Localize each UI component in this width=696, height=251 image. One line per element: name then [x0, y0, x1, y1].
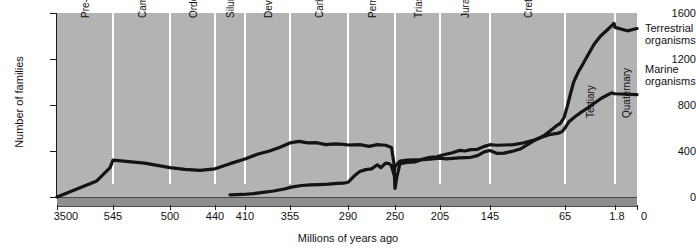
legend-terrestrial: Terrestrial organisms — [645, 22, 696, 46]
legend-terrestrial-line2: organisms — [645, 34, 696, 46]
legend-marine-line1: Marine — [645, 63, 696, 75]
x-tick-label-290: 290 — [323, 210, 373, 222]
x-axis-title: Millions of years ago — [0, 232, 696, 244]
x-tick-label-0: 0 — [619, 210, 669, 222]
x-tick-label-410: 410 — [220, 210, 270, 222]
x-tick-label-355: 355 — [265, 210, 315, 222]
biodiversity-chart: 1600 1200 800 400 0 Number of families P… — [0, 0, 696, 251]
terrestrial-organisms-curve — [230, 23, 637, 195]
x-tick-label-3500: 3500 — [41, 210, 91, 222]
x-tick-label-500: 500 — [145, 210, 195, 222]
legend-marine: Marine organisms — [645, 63, 696, 87]
x-tick-label-545: 545 — [88, 210, 138, 222]
x-tick-label-145: 145 — [465, 210, 515, 222]
legend-marine-line2: organisms — [645, 75, 696, 87]
x-tick-label-65: 65 — [540, 210, 590, 222]
x-tick-label-250: 250 — [370, 210, 420, 222]
x-tick-label-205: 205 — [415, 210, 465, 222]
legend-terrestrial-line1: Terrestrial — [645, 22, 696, 34]
